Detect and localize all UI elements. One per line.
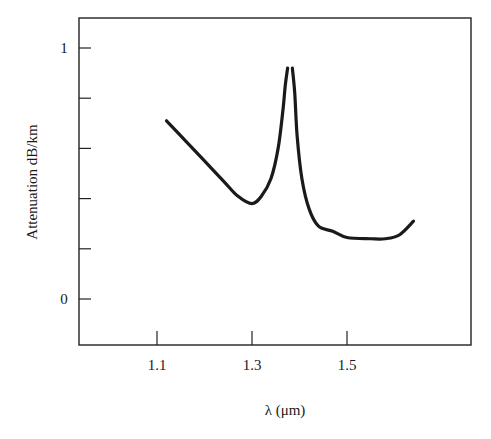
- attenuation-chart: 01 1.11.31.5 λ (μm) Attenuation dB/km: [0, 0, 491, 439]
- y-tick-label: 0: [60, 291, 68, 307]
- attenuation-curve: [167, 68, 414, 239]
- x-tick-label: 1.1: [148, 357, 167, 373]
- x-axis-label: λ (μm): [265, 402, 306, 419]
- y-axis-label: Attenuation dB/km: [24, 124, 40, 240]
- plot-frame: [79, 18, 471, 345]
- x-axis-ticks: 1.11.31.5: [148, 331, 357, 373]
- curve-segment: [292, 68, 413, 239]
- y-tick-label: 1: [60, 40, 68, 56]
- curve-segment: [167, 68, 288, 204]
- y-axis-ticks: 01: [60, 40, 91, 307]
- x-tick-label: 1.3: [243, 357, 262, 373]
- x-tick-label: 1.5: [338, 357, 357, 373]
